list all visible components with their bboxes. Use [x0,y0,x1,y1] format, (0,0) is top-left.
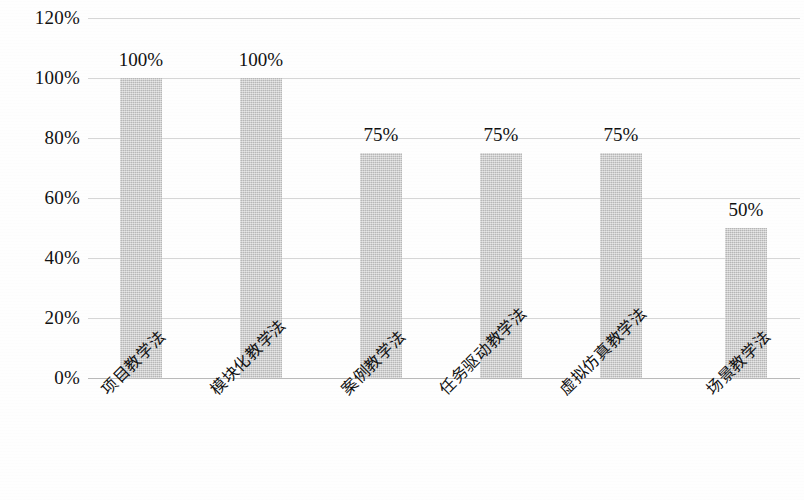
gridline [88,318,800,319]
y-axis-tick-label: 120% [0,8,80,27]
y-axis-tick-label: 0% [0,368,80,387]
y-axis-tick-label: 60% [0,188,80,207]
bar-chart: 0%20%40%60%80%100%120% 100%100%75%75%75%… [0,0,804,500]
gridline [88,258,800,259]
bar-value-label: 100% [101,50,181,69]
y-axis-tick-label: 40% [0,248,80,267]
bar-value-label: 75% [461,125,541,144]
bar-value-label: 75% [341,125,421,144]
gridline [88,198,800,199]
bar-value-label: 50% [706,200,786,219]
bar-value-label: 100% [221,50,301,69]
plot-area [88,18,800,378]
gridline [88,18,800,19]
gridline [88,78,800,79]
bar-value-label: 75% [581,125,661,144]
y-axis-tick-label: 80% [0,128,80,147]
y-axis-tick-label: 20% [0,308,80,327]
y-axis-tick-label: 100% [0,68,80,87]
gridline [88,138,800,139]
